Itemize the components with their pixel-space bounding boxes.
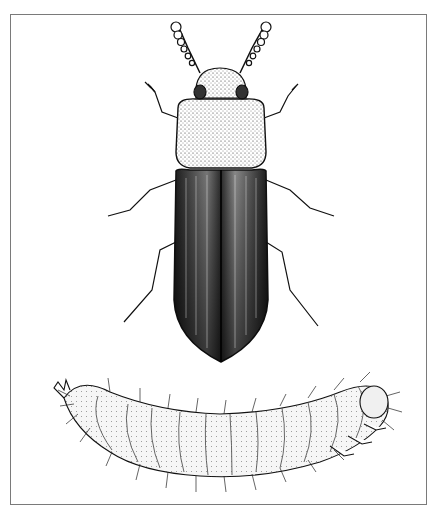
leg-hind-right	[266, 242, 318, 326]
leg-front-right	[264, 84, 298, 118]
leg-middle-left	[108, 180, 176, 216]
antenna-right	[240, 22, 271, 73]
antenna-left	[171, 22, 200, 73]
adult-beetle	[108, 22, 334, 362]
leg-front-left	[145, 82, 178, 118]
beetle-illustration	[0, 0, 437, 515]
pronotum	[176, 99, 266, 168]
larva-head	[360, 386, 388, 418]
leg-hind-left	[124, 242, 176, 322]
leg-middle-right	[266, 180, 334, 216]
larva	[54, 372, 402, 492]
